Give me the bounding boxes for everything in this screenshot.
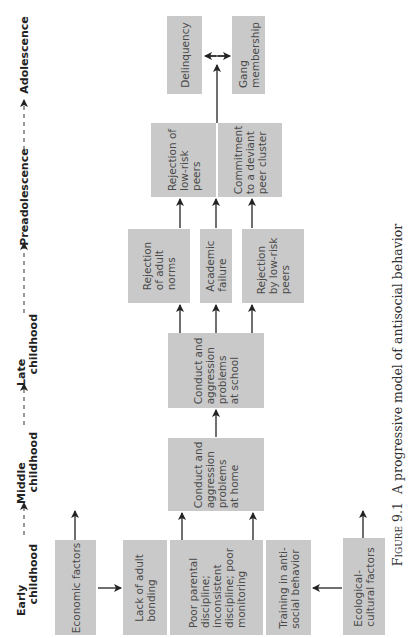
box-poor-parental-discipline: Poor parental discipline; inconsistent d…: [170, 540, 263, 635]
label-delinquency: Delinquency: [179, 22, 191, 87]
box-lack-of-adult-bonding: Lack of adult bonding: [123, 540, 167, 635]
box-conduct-home: Conduct and aggression problems at home: [168, 438, 264, 511]
label-lack-of-adult-bonding: Lack of adult bonding: [133, 554, 157, 622]
label-poor-parental-discipline: Poor parental discipline; inconsistent d…: [187, 547, 247, 627]
box-conduct-school: Conduct and aggression problems at schoo…: [168, 333, 264, 408]
figure-label: Figure 9.1: [390, 502, 405, 566]
label-rejection-by-lowrisk-peers: Rejection by low-risk peers: [255, 238, 291, 295]
label-conduct-school: Conduct and aggression problems at schoo…: [192, 337, 240, 404]
figure-title: A progressive model of antisocial behavi…: [390, 224, 405, 494]
box-ecological-cultural: Ecological- cultural factors: [343, 538, 385, 635]
box-rejection-of-lowrisk-peers: Rejection of low-risk peers: [151, 123, 216, 197]
box-rejection-adult-norms: Rejection of adult norms: [128, 229, 190, 303]
box-academic-failure: Academic failure: [200, 229, 232, 303]
box-commitment-deviant: Commitment to a deviant peer cluster: [218, 123, 282, 197]
label-conduct-home: Conduct and aggression problems at home: [192, 441, 240, 508]
label-rejection-of-lowrisk-peers: Rejection of low-risk peers: [166, 129, 202, 191]
label-rejection-adult-norms: Rejection of adult norms: [141, 242, 177, 291]
label-gang-membership: Gang membership: [237, 22, 261, 88]
box-rejection-by-lowrisk-peers: Rejection by low-risk peers: [242, 229, 304, 303]
label-ecological-cultural: Ecological- cultural factors: [352, 547, 376, 626]
label-commitment-deviant: Commitment to a deviant peer cluster: [232, 126, 268, 195]
figure-caption: Figure 9.1A progressive model of antisoc…: [390, 224, 405, 567]
box-delinquency: Delinquency: [167, 16, 202, 94]
label-economic-factors: Economic factors: [70, 542, 82, 632]
box-training-antisocial: Training in anti- social behavior: [266, 540, 311, 635]
label-training-antisocial: Training in anti- social behavior: [277, 547, 301, 629]
box-gang-membership: Gang membership: [232, 16, 265, 94]
label-academic-failure: Academic failure: [204, 240, 228, 291]
box-economic-factors: Economic factors: [55, 540, 96, 635]
